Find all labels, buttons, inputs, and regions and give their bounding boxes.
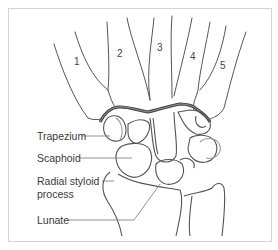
lunate-bone [156,160,184,185]
metacarpal-2-ulnar [107,22,109,90]
trapezium-bone [104,116,126,141]
metacarpal-label-3: 3 [157,42,163,53]
metacarpal-1-2-outline [75,32,116,108]
radius-distal-edge [118,174,182,236]
label-lunate: Lunate [37,214,69,226]
capitate-bone [150,112,177,162]
hamate-bone [178,110,210,134]
triquetrum-lunate-joint [180,158,194,168]
hamate-hook [196,116,206,127]
radius-left-edge [103,172,122,236]
metacarpal-label-4: 4 [190,51,196,62]
metacarpal-5-left [200,26,226,90]
metacarpal-2-radial [127,18,150,100]
trapezoid-bone [128,120,150,143]
label-radial-styloid: Radial styloid [37,175,99,187]
trapezoid-outline [116,118,122,140]
label-process: process [37,188,74,200]
metacarpal-4-right [193,22,210,110]
label-trapezium: Trapezium [37,130,86,142]
scaphoid-bone [116,143,152,177]
ulna-left-edge [189,196,192,236]
metacarpal-3-right [171,16,172,98]
metacarpal-label-2: 2 [117,48,123,59]
metacarpal-label-5: 5 [220,60,226,71]
metacarpal-label-1: 1 [74,56,80,67]
wrist-bones-illustration [0,0,278,250]
pointer-lunate [68,184,160,220]
metacarpal-3-left [149,18,154,100]
metacarpal-5-right [208,32,246,120]
label-scaphoid: Scaphoid [37,152,81,164]
